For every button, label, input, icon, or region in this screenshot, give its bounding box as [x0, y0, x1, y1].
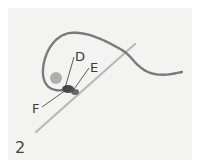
leader-line-f [42, 90, 66, 107]
thread [43, 33, 182, 91]
label-f: F [32, 102, 39, 115]
label-d: D [75, 50, 85, 63]
stitch-illustration [0, 0, 200, 166]
label-e: E [90, 61, 98, 74]
leader-line-d [65, 57, 74, 88]
stitch-loops [50, 72, 62, 84]
step-number: 2 [15, 140, 25, 156]
